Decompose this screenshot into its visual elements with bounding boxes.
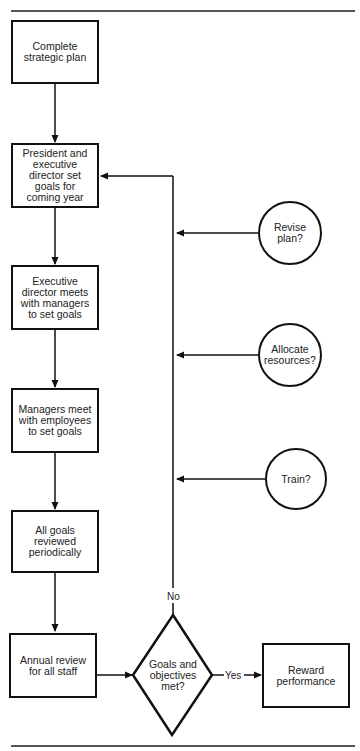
step-goals-reviewed: All goals reviewed periodically: [11, 510, 99, 573]
feedback-allocate-resources: Allocate resources?: [258, 323, 322, 387]
step-label: Complete strategic plan: [17, 41, 93, 63]
feedback-label: Revise plan?: [270, 222, 310, 244]
step-complete-strategic-plan: Complete strategic plan: [11, 20, 99, 84]
flowchart-canvas: Complete strategic plan President and ex…: [0, 0, 360, 751]
edge-label-yes: Yes: [224, 670, 242, 681]
step-label: Managers meet with employees to set goal…: [17, 404, 93, 437]
feedback-label: Allocate resources?: [264, 344, 316, 366]
step-reward-performance: Reward performance: [262, 643, 350, 708]
decision-goals-met: Goals and objectives met?: [133, 615, 213, 735]
decision-label: Goals and objectives met?: [147, 659, 199, 692]
feedback-revise-plan: Revise plan?: [258, 201, 322, 265]
step-label: Annual review for all staff: [15, 655, 91, 677]
step-label: Executive director meets with managers t…: [17, 276, 93, 320]
step-annual-review: Annual review for all staff: [9, 633, 97, 698]
step-managers-meet-employees: Managers meet with employees to set goal…: [11, 388, 99, 453]
feedback-label: Train?: [281, 474, 310, 485]
step-president-set-goals: President and executive director set goa…: [11, 143, 99, 208]
step-label: Reward performance: [268, 665, 344, 687]
step-label: President and executive director set goa…: [17, 148, 93, 203]
step-label: All goals reviewed periodically: [17, 525, 93, 558]
step-executive-director-meets: Executive director meets with managers t…: [11, 265, 99, 330]
edge-label-no: No: [166, 591, 181, 602]
feedback-train: Train?: [265, 448, 327, 510]
